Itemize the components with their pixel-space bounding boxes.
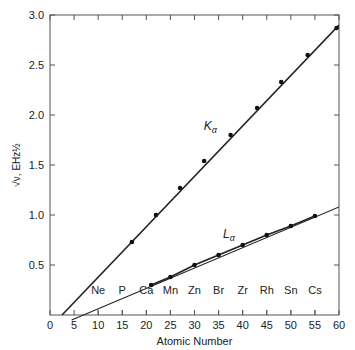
x-tick-label: 50	[285, 319, 297, 331]
y-tick-label: 2.5	[29, 59, 44, 71]
data-point	[149, 283, 154, 288]
data-point	[334, 26, 339, 31]
data-point	[305, 53, 310, 58]
y-tick-label: 0.5	[29, 259, 44, 271]
data-point	[228, 133, 233, 138]
data-point	[313, 214, 318, 219]
element-label: Cs	[308, 284, 322, 296]
data-point	[202, 159, 207, 164]
x-tick-label: 25	[164, 319, 176, 331]
chart: 0510152025303540455055600.51.01.52.02.53…	[0, 0, 355, 350]
data-point	[154, 213, 159, 218]
y-tick-label: 1.5	[29, 159, 44, 171]
element-label: Ne	[91, 284, 105, 296]
x-tick-label: 5	[71, 319, 77, 331]
x-tick-label: 40	[237, 319, 249, 331]
data-point	[216, 253, 221, 258]
data-point	[255, 106, 260, 111]
x-tick-label: 45	[261, 319, 273, 331]
x-tick-label: 60	[333, 319, 345, 331]
series-label: Kα	[204, 119, 218, 135]
x-tick-label: 35	[212, 319, 224, 331]
element-label: Sn	[284, 284, 297, 296]
x-tick-label: 30	[188, 319, 200, 331]
x-tick-label: 0	[47, 319, 53, 331]
data-point	[279, 80, 284, 85]
data-point	[178, 186, 183, 191]
x-tick-label: 55	[309, 319, 321, 331]
element-label: Mn	[163, 284, 178, 296]
data-point	[130, 240, 135, 245]
x-tick-label: 20	[140, 319, 152, 331]
data-point	[192, 263, 197, 268]
plot-area: 0510152025303540455055600.51.01.52.02.53…	[11, 9, 345, 347]
series-line	[62, 25, 339, 315]
element-label: Zn	[188, 284, 201, 296]
y-tick-label: 1.0	[29, 209, 44, 221]
element-label: Rh	[260, 284, 274, 296]
y-tick-label: 2.0	[29, 109, 44, 121]
data-point	[289, 224, 294, 229]
data-point	[240, 243, 245, 248]
y-tick-label: 3.0	[29, 9, 44, 21]
element-label: P	[119, 284, 126, 296]
plot-frame	[50, 15, 339, 315]
element-label: Zr	[237, 284, 248, 296]
data-point	[168, 275, 173, 280]
series-label: Lα	[223, 227, 236, 243]
data-point	[264, 233, 269, 238]
x-tick-label: 15	[116, 319, 128, 331]
element-label: Br	[213, 284, 224, 296]
x-axis-label: Atomic Number	[157, 335, 233, 347]
y-axis-label: √ν, EHz½	[11, 143, 22, 187]
x-tick-label: 10	[92, 319, 104, 331]
